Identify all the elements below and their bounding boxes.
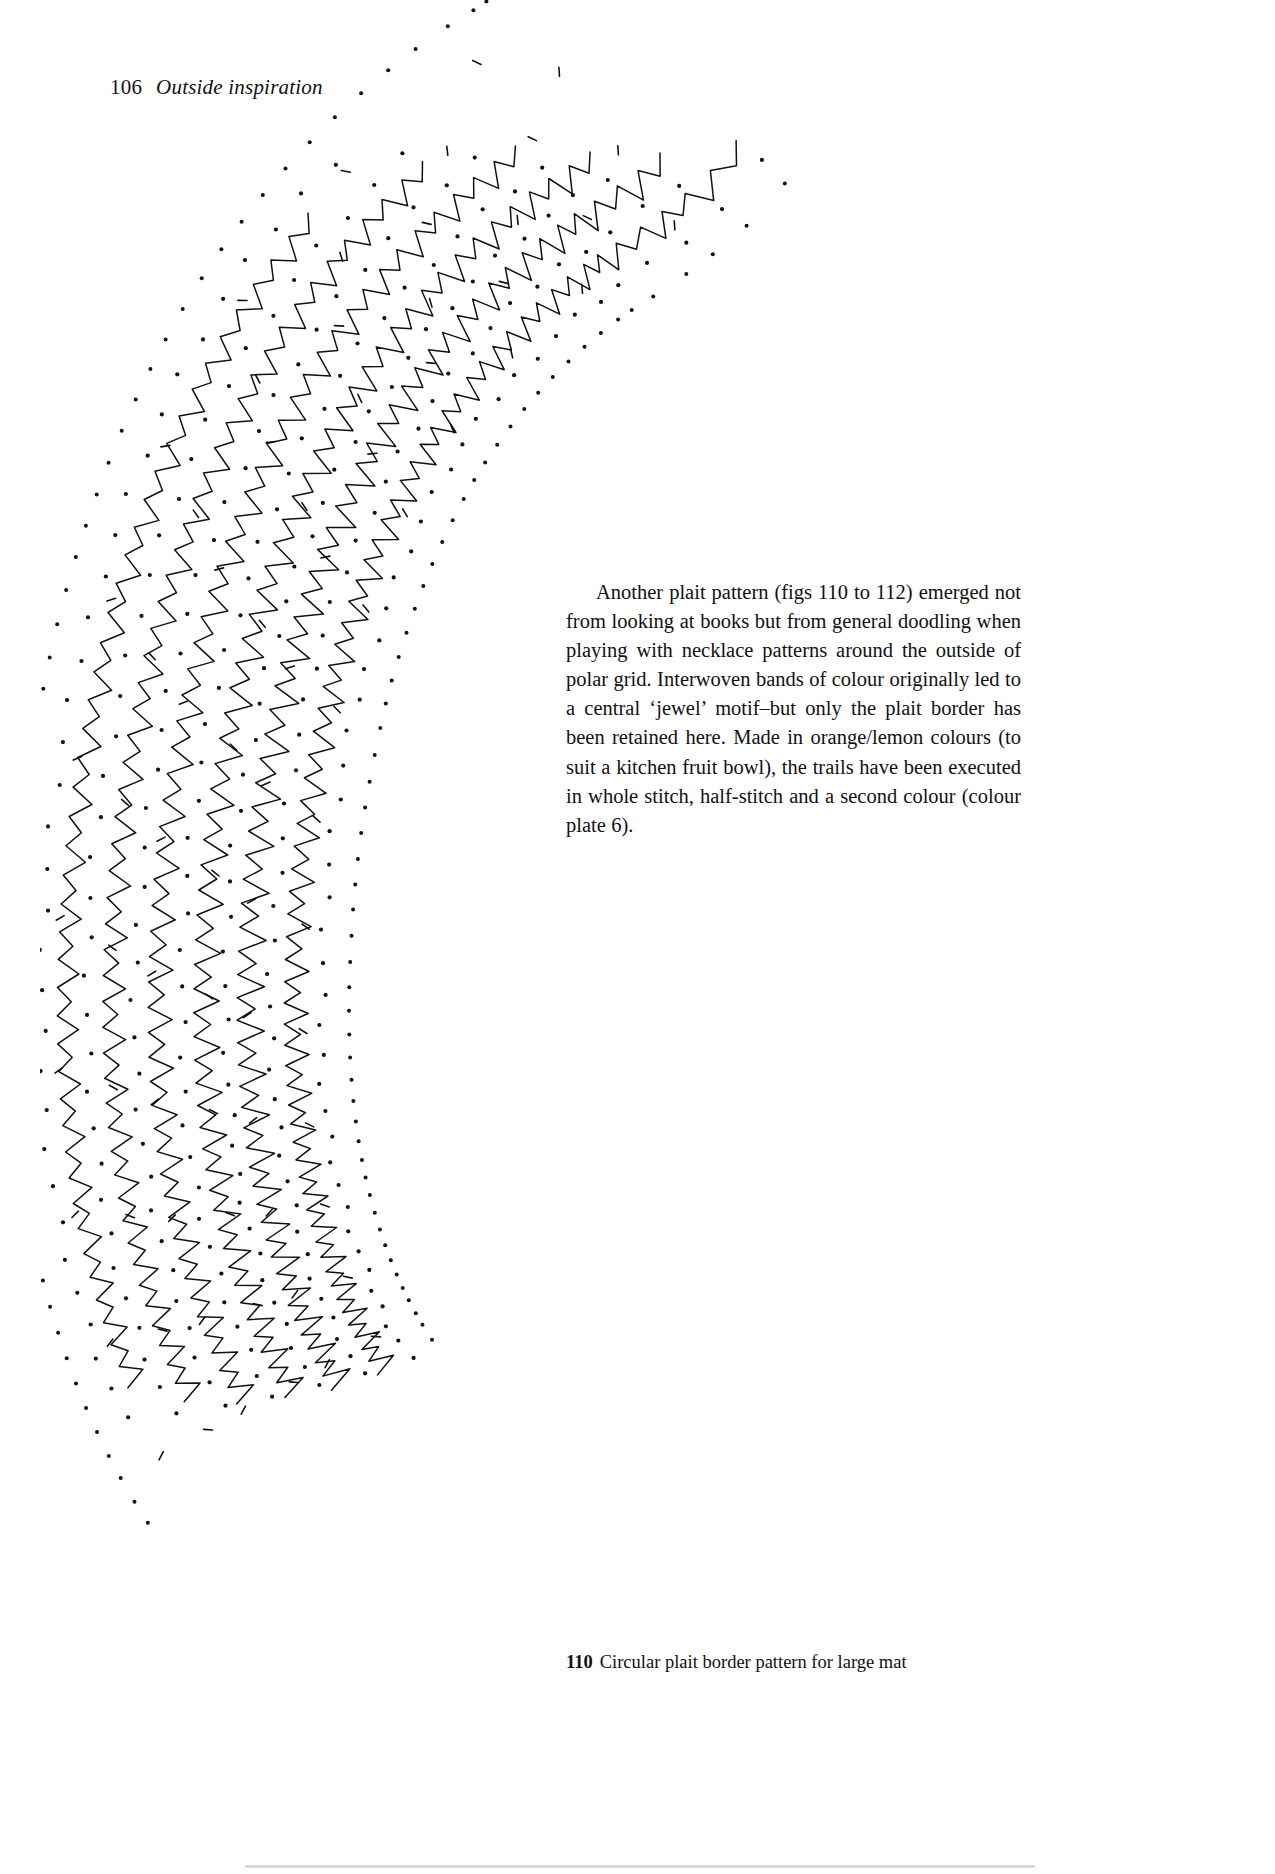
book-page: 106 Outside inspiration Another plait pa… bbox=[0, 0, 1275, 1874]
body-paragraph: Another plait pattern (figs 110 to 112) … bbox=[566, 578, 1021, 840]
page-bottom-rule bbox=[245, 1865, 1035, 1868]
body-text-column: Another plait pattern (figs 110 to 112) … bbox=[566, 578, 1021, 840]
figure-caption-text: Circular plait border pattern for large … bbox=[600, 1652, 907, 1672]
figure-number: 110 bbox=[566, 1652, 593, 1672]
figure-caption: 110Circular plait border pattern for lar… bbox=[566, 1650, 1036, 1674]
